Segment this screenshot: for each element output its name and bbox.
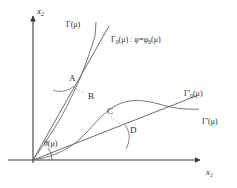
figure-container: x2 x1 Γ(μ) Γ0(μ) : φ=φ0(μ) Γ'0(μ) Γ'(μ) … <box>0 0 237 188</box>
gamma-label: Γ(μ) <box>66 21 80 29</box>
gamma-prime-zero-label: Γ'0(μ) <box>184 90 203 99</box>
pointer-dash-c <box>111 117 120 124</box>
y-axis-label-sub: 2 <box>41 10 44 17</box>
gamma-zero-label: Γ0(μ) : φ=φ0(μ) <box>111 36 161 45</box>
point-label-d: D <box>130 126 137 135</box>
gamma-zero-label-rest: (μ) : φ=φ <box>119 35 149 44</box>
point-label-b: B <box>88 92 94 101</box>
gamma-zero-label-tail: (μ) <box>151 35 161 44</box>
y-axis-label: x2 <box>37 7 44 17</box>
point-label-c: C <box>107 107 113 116</box>
axes-group <box>8 16 200 163</box>
gamma-prime-zero-line <box>33 96 196 160</box>
x-axis-label-sub: 1 <box>210 171 213 178</box>
theta-label: θ(μ) <box>44 140 57 148</box>
gamma-prime-label: Γ'(μ) <box>202 118 218 126</box>
gamma-prime-zero-tail: (μ) <box>193 89 203 98</box>
pointer-arc-d <box>125 125 129 149</box>
point-label-a: A <box>69 74 76 83</box>
pointer-arc-a <box>53 86 74 91</box>
gamma-prime-curve <box>33 101 199 161</box>
x-axis-label: x1 <box>206 168 213 178</box>
